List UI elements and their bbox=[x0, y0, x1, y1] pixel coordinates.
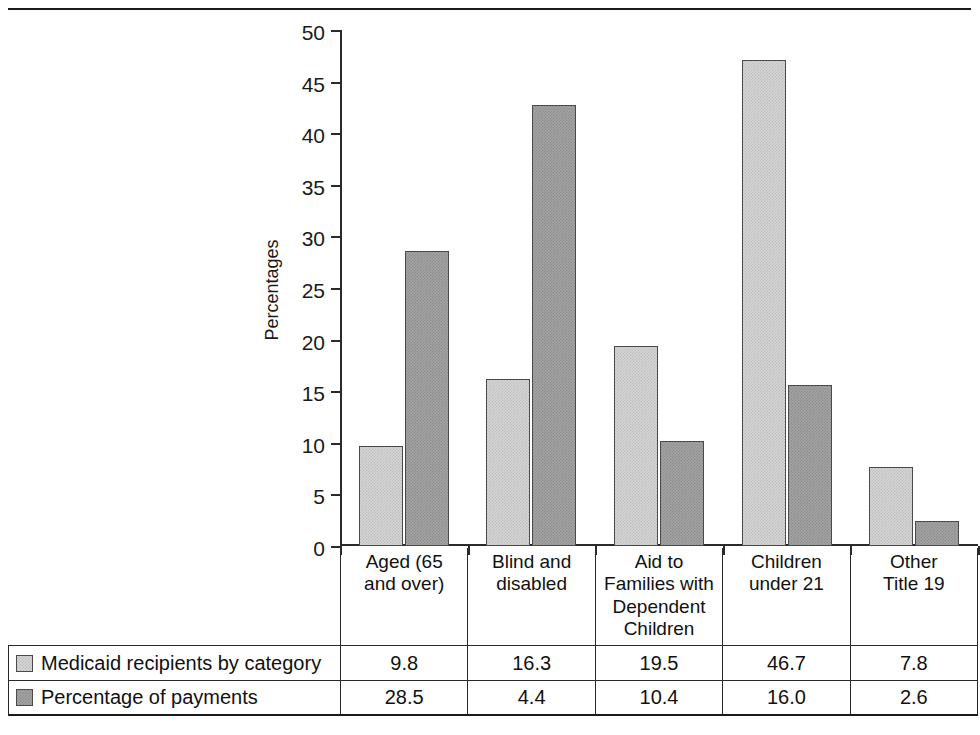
category-label-line: Dependent bbox=[596, 596, 722, 618]
y-axis-tick: 10 bbox=[331, 443, 340, 445]
bar bbox=[486, 379, 530, 546]
category-label-cell: Aid toFamilies withDependentChildren bbox=[596, 548, 723, 645]
legend-data-table: Medicaid recipients by category9.816.319… bbox=[8, 645, 978, 716]
category-label-line: under 21 bbox=[723, 573, 849, 595]
legend-value-cell: 2.6 bbox=[851, 681, 978, 714]
y-axis-tick: 20 bbox=[331, 340, 340, 342]
top-horizontal-rule bbox=[8, 8, 971, 10]
bar bbox=[359, 446, 403, 546]
category-label-line: Children bbox=[596, 618, 722, 640]
bar bbox=[742, 60, 786, 546]
legend-swatch-icon bbox=[16, 689, 33, 706]
y-axis-tick: 40 bbox=[331, 133, 340, 135]
legend-series-name-cell: Percentage of payments bbox=[9, 681, 341, 714]
bar bbox=[788, 385, 832, 546]
y-axis-tick: 25 bbox=[331, 288, 340, 290]
legend-table-row: Percentage of payments28.54.410.416.02.6 bbox=[9, 681, 978, 716]
y-axis-tick: 15 bbox=[331, 391, 340, 393]
category-label-line: Aid to bbox=[596, 551, 722, 573]
category-label-line: Title 19 bbox=[851, 573, 977, 595]
bar bbox=[532, 105, 576, 546]
y-axis-tick-label: 5 bbox=[313, 486, 325, 507]
category-label-line: disabled bbox=[468, 573, 594, 595]
y-axis-tick-label: 45 bbox=[302, 73, 325, 94]
legend-series-name-cell: Medicaid recipients by category bbox=[9, 646, 341, 680]
legend-table-row: Medicaid recipients by category9.816.319… bbox=[9, 646, 978, 681]
category-label-line: Aged (65 bbox=[341, 551, 467, 573]
bar bbox=[614, 346, 658, 546]
y-axis-tick-label: 20 bbox=[302, 331, 325, 352]
y-axis-line bbox=[340, 30, 342, 546]
legend-value-cell: 28.5 bbox=[341, 681, 468, 714]
legend-value-cell: 16.0 bbox=[723, 681, 850, 714]
y-axis-tick: 45 bbox=[331, 82, 340, 84]
legend-value-cell: 4.4 bbox=[468, 681, 595, 714]
y-axis-tick-label: 35 bbox=[302, 176, 325, 197]
y-axis-tick-label: 50 bbox=[302, 22, 325, 43]
bar bbox=[869, 467, 913, 546]
y-axis-tick-label: 25 bbox=[302, 280, 325, 301]
category-label-cell: Blind anddisabled bbox=[468, 548, 595, 645]
y-axis-tick: 35 bbox=[331, 185, 340, 187]
y-axis-title: Percentages bbox=[262, 239, 283, 340]
legend-value-cell: 16.3 bbox=[468, 646, 595, 680]
bar bbox=[405, 251, 449, 546]
legend-value-cell: 7.8 bbox=[851, 646, 978, 680]
y-axis-tick-label: 10 bbox=[302, 434, 325, 455]
category-label-line: Other bbox=[851, 551, 977, 573]
category-label-line: Blind and bbox=[468, 551, 594, 573]
y-axis-tick-label: 40 bbox=[302, 125, 325, 146]
category-header-row: Aged (65and over)Blind anddisabledAid to… bbox=[340, 548, 978, 645]
y-axis-tick: 30 bbox=[331, 236, 340, 238]
legend-series-label: Medicaid recipients by category bbox=[41, 652, 321, 675]
category-label-line: Children bbox=[723, 551, 849, 573]
category-label-cell: OtherTitle 19 bbox=[851, 548, 978, 645]
y-axis-tick-label: 0 bbox=[313, 538, 325, 559]
legend-swatch-icon bbox=[16, 655, 33, 672]
legend-series-label: Percentage of payments bbox=[41, 686, 258, 709]
category-label-line: Families with bbox=[596, 573, 722, 595]
category-label-cell: Aged (65and over) bbox=[341, 548, 468, 645]
legend-value-cell: 46.7 bbox=[723, 646, 850, 680]
legend-value-cell: 10.4 bbox=[596, 681, 723, 714]
y-axis-tick: 50 bbox=[331, 30, 340, 32]
legend-value-cell: 19.5 bbox=[596, 646, 723, 680]
y-axis-tick: 0 bbox=[331, 546, 340, 548]
category-label-line: and over) bbox=[341, 573, 467, 595]
y-axis-tick-label: 15 bbox=[302, 383, 325, 404]
category-label-cell: Childrenunder 21 bbox=[723, 548, 850, 645]
legend-value-cell: 9.8 bbox=[341, 646, 468, 680]
bar bbox=[660, 441, 704, 546]
y-axis-tick: 5 bbox=[331, 494, 340, 496]
plot-area: 50454035302520151050 bbox=[340, 30, 978, 546]
y-axis-tick-label: 30 bbox=[302, 228, 325, 249]
bar bbox=[915, 521, 959, 546]
